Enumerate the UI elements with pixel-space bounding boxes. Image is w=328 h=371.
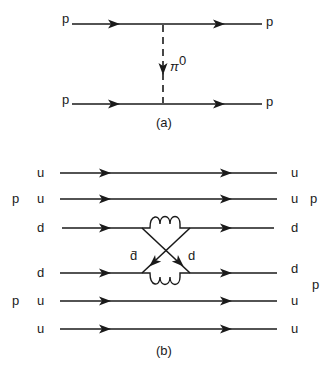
label-quark-left: d — [37, 220, 44, 235]
feynman-diagrams: p p p p π 0 (a) — [0, 0, 328, 371]
caption-a: (a) — [156, 115, 172, 130]
label-quark-right: u — [291, 191, 298, 206]
label-proton-left-bottom: p — [12, 293, 19, 308]
label-p-out-bottom: p — [266, 94, 273, 109]
label-pion-charge: 0 — [179, 53, 186, 68]
label-quark-left: u — [37, 191, 44, 206]
label-quark-right: u — [291, 293, 298, 308]
caption-b: (b) — [156, 343, 172, 358]
gluon-top — [142, 217, 190, 229]
label-pion: π — [170, 59, 179, 74]
label-p-in-bottom: p — [62, 92, 69, 107]
label-quark-right: u — [291, 165, 298, 180]
label-exchange-dbar: d̄ — [130, 248, 137, 263]
label-p-in-top: p — [62, 11, 69, 26]
label-quark-left: d — [37, 265, 44, 280]
label-proton-right-top: p — [310, 191, 317, 206]
label-quark-left: u — [37, 165, 44, 180]
label-proton-right-bottom: p — [312, 277, 319, 292]
gluon-bottom — [142, 273, 190, 285]
label-quark-right: u — [291, 321, 298, 336]
label-p-out-top: p — [266, 14, 273, 29]
label-quark-left: u — [37, 321, 44, 336]
label-quark-right: d — [291, 261, 298, 276]
diagram-a: p p p p π 0 (a) — [62, 11, 273, 130]
label-exchange-d: d — [188, 248, 195, 263]
diagram-b: u u d d u u p p u u d d u u p p d̄ d (b) — [12, 165, 319, 358]
label-quark-right: d — [291, 220, 298, 235]
label-quark-left: u — [37, 293, 44, 308]
label-proton-left-top: p — [12, 191, 19, 206]
